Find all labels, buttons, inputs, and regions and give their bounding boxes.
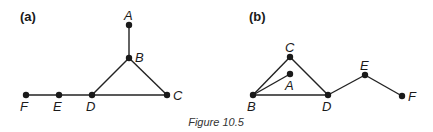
figure-10-5: (a) ABCDEF (b) CABDEF Figure 10.5 — [0, 0, 433, 132]
edge-b-C-D — [290, 57, 328, 95]
node-label-a-A: A — [123, 8, 133, 23]
panel-b: (b) CABDEF — [247, 9, 417, 114]
node-b-D — [325, 92, 331, 98]
panel-b-nodes: CABDEF — [247, 40, 417, 114]
node-label-b-A: A — [284, 78, 294, 93]
node-a-B — [126, 55, 132, 61]
node-b-F — [399, 93, 405, 99]
edge-a-B-D — [92, 58, 129, 95]
panel-a-edges — [26, 25, 167, 95]
panel-b-edges — [253, 57, 402, 96]
node-b-A — [287, 71, 293, 77]
node-label-b-F: F — [408, 89, 417, 104]
edge-b-E-F — [365, 75, 402, 96]
panel-a-nodes: ABCDEF — [20, 8, 183, 114]
node-a-D — [89, 92, 95, 98]
node-label-b-D: D — [322, 99, 331, 114]
node-a-F — [23, 92, 29, 98]
node-label-b-E: E — [360, 58, 369, 73]
node-a-E — [56, 92, 62, 98]
panel-a-label: (a) — [20, 9, 36, 24]
edge-b-D-E — [328, 75, 365, 95]
node-label-a-D: D — [86, 99, 95, 114]
panel-a: (a) ABCDEF — [20, 8, 183, 114]
node-a-C — [164, 92, 170, 98]
node-label-b-C: C — [285, 40, 295, 55]
node-label-b-B: B — [247, 99, 256, 114]
node-label-a-F: F — [20, 99, 29, 114]
node-label-a-E: E — [53, 99, 62, 114]
node-b-B — [250, 92, 256, 98]
figure-caption: Figure 10.5 — [188, 116, 245, 128]
node-label-a-C: C — [173, 88, 183, 103]
panel-b-label: (b) — [249, 9, 266, 24]
node-label-a-B: B — [135, 50, 144, 65]
